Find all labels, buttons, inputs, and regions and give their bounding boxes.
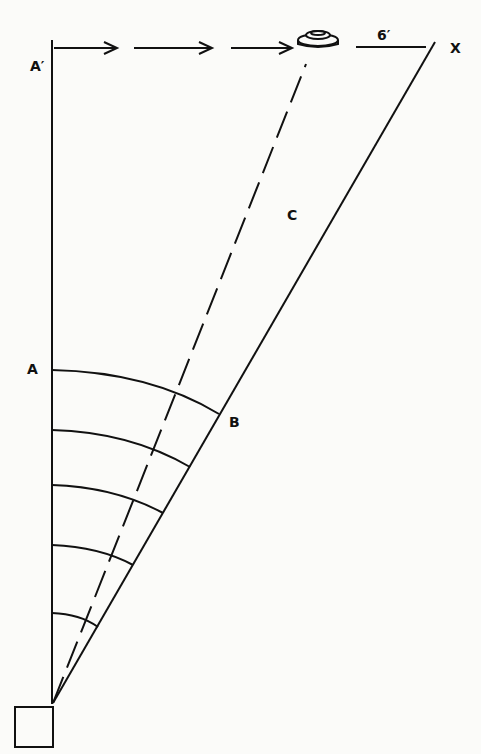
label-a-prime: A′: [30, 58, 45, 74]
arcs: [52, 370, 219, 627]
label-x: X: [450, 40, 461, 56]
hole-icon: [298, 31, 338, 47]
label-distance: 6′: [377, 27, 391, 43]
line-to-x: [53, 42, 435, 703]
label-b: B: [229, 414, 240, 430]
diagram-canvas: A′ A B C X 6′: [0, 0, 481, 754]
label-a: A: [27, 361, 38, 377]
dashed-line-to-hole: [53, 64, 306, 703]
tee-box: [15, 707, 53, 747]
arrow-path: [54, 42, 292, 54]
label-c: C: [287, 207, 297, 223]
